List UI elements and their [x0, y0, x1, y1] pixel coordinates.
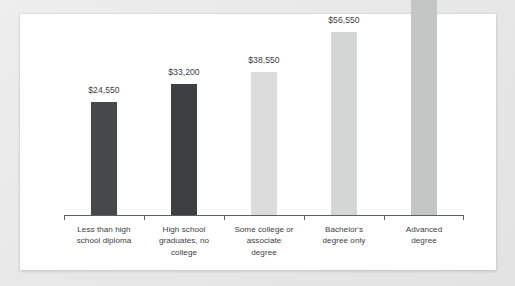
bar-group: $33,200: [144, 34, 224, 216]
bar[interactable]: [411, 0, 437, 216]
x-axis-category-label: Advanced degree: [384, 224, 464, 247]
x-axis-tick: [463, 215, 464, 220]
x-axis-tick: [144, 215, 145, 220]
x-axis-category-label-line: associate: [224, 235, 304, 246]
bar-group: $38,550: [224, 34, 304, 216]
x-axis-category-label-line: Some college or: [224, 224, 304, 235]
x-axis-tick: [224, 215, 225, 220]
figure-root: $24,550 $33,200 $38,550 $56,550 $70,050: [0, 0, 515, 286]
bar-value-label: $24,550: [88, 85, 119, 95]
x-axis-category-label-line: Bachelor's: [304, 224, 384, 235]
x-axis-category-label-line: Advanced: [384, 224, 464, 235]
x-axis-category-label-line: High school: [144, 224, 224, 235]
x-axis-category-label: Some college or associate degree: [224, 224, 304, 258]
bar-value-label: $33,200: [168, 67, 199, 77]
bar-chart-plot-area: $24,550 $33,200 $38,550 $56,550 $70,050: [64, 34, 464, 216]
x-axis-category-label-line: degree: [384, 235, 464, 246]
bar[interactable]: [171, 84, 197, 216]
x-axis-category-label-line: school diploma: [64, 235, 144, 246]
x-axis-tick: [64, 215, 65, 220]
bar[interactable]: [251, 72, 277, 216]
bar[interactable]: [91, 102, 117, 216]
x-axis-line: [64, 215, 464, 216]
x-axis-category-label-line: graduates, no: [144, 235, 224, 246]
bar-value-label: $38,550: [248, 55, 279, 65]
x-axis-category-label-line: Less than high: [64, 224, 144, 235]
x-axis-tick: [384, 215, 385, 220]
x-axis-category-label-line: degree only: [304, 235, 384, 246]
bar-value-label: $56,550: [328, 15, 359, 25]
bar-group: $70,050: [384, 34, 464, 216]
x-axis-category-label: Less than high school diploma: [64, 224, 144, 247]
x-axis-category-label-line: degree: [224, 247, 304, 258]
x-axis-category-label: Bachelor's degree only: [304, 224, 384, 247]
bar-group: $24,550: [64, 34, 144, 216]
x-axis-category-label: High school graduates, no college: [144, 224, 224, 258]
x-axis-tick: [304, 215, 305, 220]
chart-card: $24,550 $33,200 $38,550 $56,550 $70,050: [20, 14, 496, 270]
bar-group: $56,550: [304, 34, 384, 216]
x-axis-category-label-line: college: [144, 247, 224, 258]
bar[interactable]: [331, 32, 357, 216]
